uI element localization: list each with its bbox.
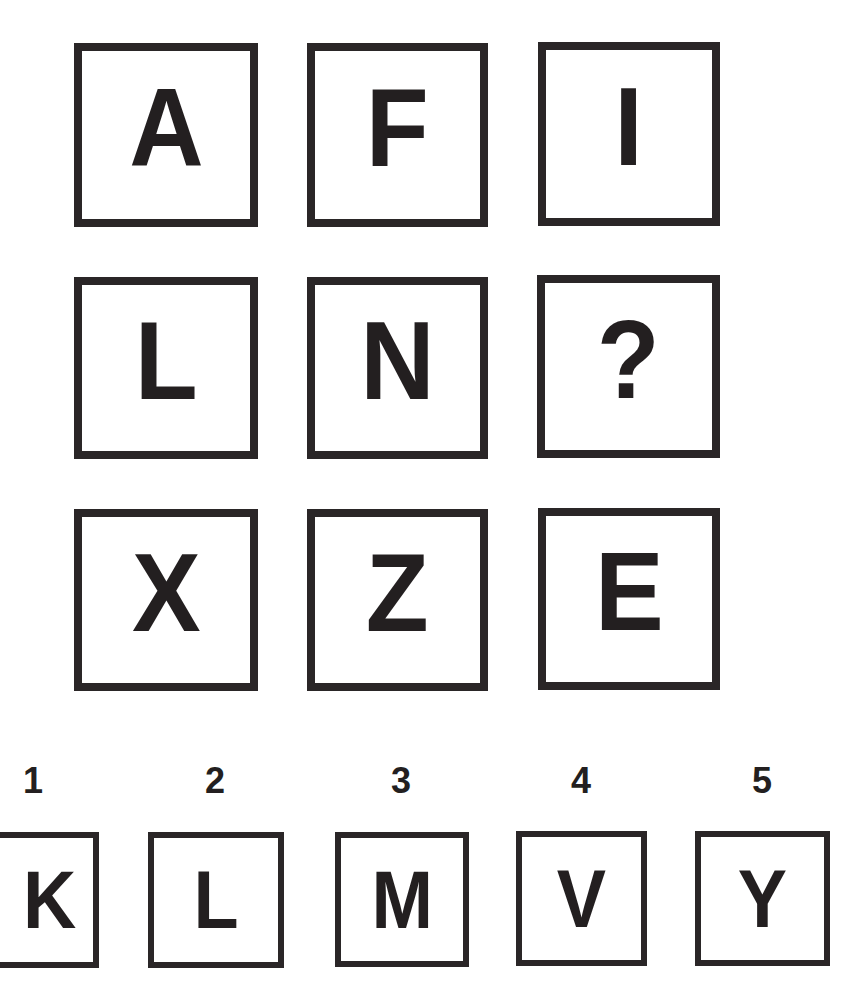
grid-letter: L <box>135 305 198 417</box>
grid-letter: I <box>615 71 644 183</box>
option-5[interactable]: Y <box>695 831 830 966</box>
option-letter: L <box>193 859 238 941</box>
grid-cell-r1c1: A <box>74 43 258 227</box>
option-number-1: 1 <box>3 763 63 799</box>
option-3[interactable]: M <box>335 832 469 967</box>
grid-letter: A <box>129 72 203 184</box>
option-letter: V <box>557 858 606 940</box>
grid-cell-r3c2: Z <box>307 509 488 691</box>
option-number-4: 4 <box>551 763 611 799</box>
option-2[interactable]: L <box>148 832 284 968</box>
option-number-2: 2 <box>185 763 245 799</box>
grid-cell-r1c2: F <box>307 43 488 227</box>
option-letter: K <box>23 859 76 941</box>
option-4[interactable]: V <box>516 831 647 966</box>
option-number-5: 5 <box>732 763 792 799</box>
grid-letter: X <box>132 537 201 649</box>
question-mark: ? <box>597 304 660 416</box>
grid-cell-r2c3-missing: ? <box>537 275 720 458</box>
grid-letter: N <box>360 305 434 417</box>
grid-cell-r3c1: X <box>74 509 258 691</box>
grid-cell-r1c3: I <box>538 42 720 226</box>
grid-letter: Z <box>366 537 429 649</box>
grid-cell-r2c1: L <box>74 277 258 459</box>
option-letter: M <box>371 859 432 941</box>
option-number-3: 3 <box>371 763 431 799</box>
grid-cell-r2c2: N <box>307 277 488 459</box>
option-letter: Y <box>738 858 787 940</box>
grid-letter: F <box>366 72 429 184</box>
grid-letter: E <box>595 536 664 648</box>
grid-cell-r3c3: E <box>538 508 720 690</box>
option-1[interactable]: K <box>0 832 99 968</box>
